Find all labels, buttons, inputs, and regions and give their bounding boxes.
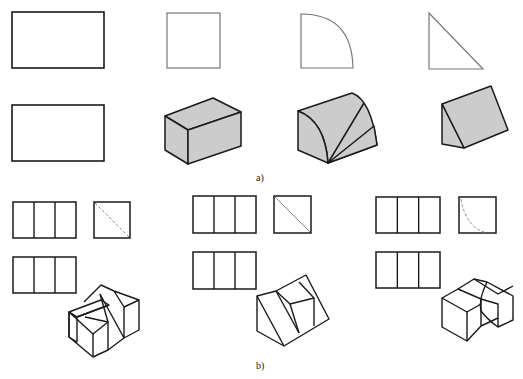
top-view (193, 252, 256, 289)
quarter-cylinder-isometric (298, 93, 377, 163)
iso-edge (257, 275, 329, 346)
side-view-hidden-line (275, 197, 310, 232)
side-view (459, 197, 496, 233)
front-view-rect (12, 12, 104, 68)
iso-edge (124, 300, 139, 307)
technical-drawing-canvas (0, 0, 523, 379)
part-a-isometric-solids (165, 86, 508, 164)
iso-edge (442, 289, 481, 341)
side-view-hidden-line (95, 203, 129, 237)
part-b-figure-groups (13, 196, 513, 357)
front-view (193, 196, 256, 233)
side-view-hidden-line (461, 199, 487, 233)
iso-edge (276, 291, 299, 333)
variant-2 (193, 196, 329, 346)
box-isometric (165, 98, 241, 164)
top-view (13, 257, 76, 293)
part-a-orthographic-views (12, 12, 483, 161)
variant-1 (13, 202, 139, 357)
side-view-square (167, 13, 220, 68)
iso-edge (442, 298, 481, 312)
iso-edge (108, 338, 124, 350)
side-view-triangle (429, 13, 483, 69)
front-view (376, 197, 440, 233)
iso-edge (474, 279, 513, 294)
iso-edge (69, 312, 108, 357)
caption-part-a: a) (256, 172, 264, 183)
isometric-view (69, 285, 139, 357)
variant-3 (376, 197, 513, 341)
isometric-view (442, 279, 513, 341)
caption-part-b: b) (256, 360, 264, 371)
side-view-quarter-circle (301, 14, 353, 68)
top-view-rect (12, 105, 104, 161)
front-view (13, 202, 76, 238)
top-view (376, 252, 440, 288)
isometric-view (257, 275, 329, 346)
wedge-isometric (442, 86, 508, 148)
